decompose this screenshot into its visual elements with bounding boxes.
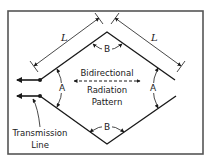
length-label-right: L (150, 32, 158, 43)
transmission-line-pointer (33, 99, 40, 127)
angle-a-right-label: A (150, 83, 157, 93)
pattern-label-line2: Radiation (87, 85, 127, 95)
angle-b-bottom-label: B (104, 122, 110, 132)
angle-a-left-label: A (59, 83, 66, 93)
pattern-label-line1: Bidirectional (80, 68, 133, 78)
angle-b-top-label: B (104, 44, 110, 54)
antenna-diagram: L L B B A A Bidirectional Radiation Patt… (0, 0, 211, 161)
pattern-label-line3: Pattern (92, 97, 123, 107)
transmission-line-label-2: Line (31, 140, 49, 150)
length-label-left: L (60, 32, 68, 43)
transmission-line-label-1: Transmission (12, 128, 68, 138)
